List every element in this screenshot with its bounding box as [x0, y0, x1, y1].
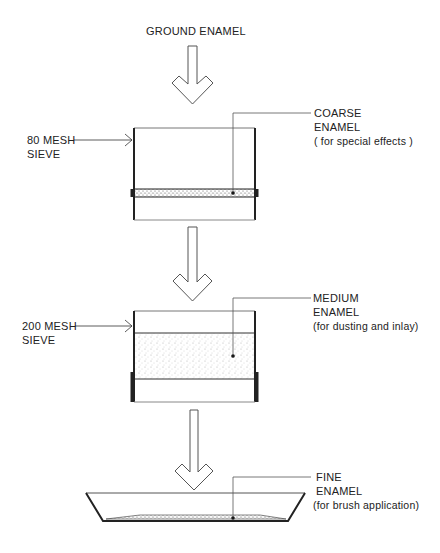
down-arrow-icon [175, 410, 213, 490]
sieve-80-label: 80 MESH SIEVE [27, 133, 75, 161]
leader-coarse [231, 113, 311, 195]
coarse-enamel-label: COARSE ENAMEL ( for special effects ) [314, 106, 413, 148]
sieve-200-mesh [132, 311, 257, 402]
sieve-200-label-line1: 200 MESH [22, 319, 77, 333]
pointer-80-mesh [74, 134, 132, 146]
collecting-dish [86, 493, 305, 521]
medium-enamel-label: MEDIUM ENAMEL (for dusting and inlay) [313, 291, 419, 333]
medium-line1: MEDIUM [313, 291, 419, 305]
fine-line2: ENAMEL [316, 484, 419, 498]
coarse-line2: ENAMEL [314, 120, 413, 134]
coarse-line1: COARSE [314, 106, 413, 120]
coarse-line3: ( for special effects ) [314, 134, 413, 148]
sieve-80-label-line1: 80 MESH [27, 133, 75, 147]
fine-line1: FINE [316, 470, 419, 484]
sieve-200-label-line2: SIEVE [22, 333, 77, 347]
down-arrow-icon [172, 46, 213, 104]
down-arrow-icon [173, 227, 212, 301]
sieve-200-label: 200 MESH SIEVE [22, 319, 77, 347]
sieve-80-mesh [132, 128, 257, 220]
fine-line3: (for brush application) [313, 498, 419, 512]
sieve-80-label-line2: SIEVE [27, 147, 75, 161]
title-ground-enamel: GROUND ENAMEL [146, 24, 246, 38]
pointer-200-mesh [75, 320, 132, 332]
medium-line2: ENAMEL [313, 305, 419, 319]
leader-fine [231, 477, 311, 520]
fine-enamel-label: FINE ENAMEL (for brush application) [316, 470, 419, 512]
medium-line3: (for dusting and inlay) [313, 319, 419, 333]
